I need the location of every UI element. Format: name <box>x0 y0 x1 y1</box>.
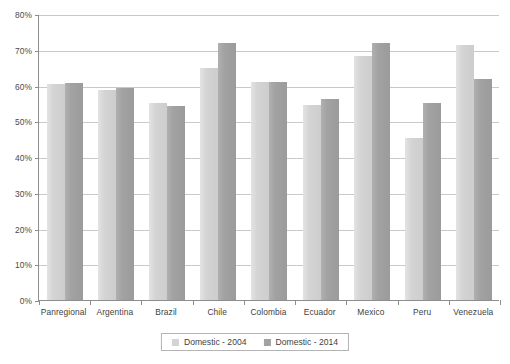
y-axis-tick-label: 0% <box>20 296 32 306</box>
y-axis-tick-label: 80% <box>15 10 32 20</box>
y-axis-tick-label: 40% <box>15 153 32 163</box>
chart-legend: Domestic - 2004Domestic - 2014 <box>161 333 349 351</box>
x-axis-tick-label: Argentina <box>96 307 133 317</box>
bar <box>47 84 65 300</box>
x-axis-tick <box>346 300 347 305</box>
x-axis-tick-label: Mexico <box>357 307 384 317</box>
bar <box>321 99 339 300</box>
bar-chart: 0%10%20%30%40%50%60%70%80% PanregionalAr… <box>0 0 510 364</box>
x-axis-tick <box>141 300 142 305</box>
bar <box>65 83 83 300</box>
x-axis-tick-label: Peru <box>413 307 431 317</box>
y-axis-tick-label: 20% <box>15 225 32 235</box>
x-axis-tick <box>449 300 450 305</box>
x-axis-tick-label: Ecuador <box>304 307 336 317</box>
bar-group <box>39 15 90 300</box>
y-axis-tick-label: 60% <box>15 82 32 92</box>
x-axis-tick <box>500 300 501 305</box>
bar-group <box>346 15 397 300</box>
y-axis-tick-label: 30% <box>15 189 32 199</box>
bar-group <box>398 15 449 300</box>
x-axis-tick-label: Chile <box>207 307 227 317</box>
bar <box>251 82 269 300</box>
y-axis-tick-label: 10% <box>15 260 32 270</box>
bar <box>423 103 441 300</box>
bar <box>354 56 372 300</box>
bar <box>116 88 134 300</box>
bar-group <box>141 15 192 300</box>
x-axis-tick <box>398 300 399 305</box>
legend-swatch-icon <box>172 339 179 346</box>
bar-group <box>449 15 500 300</box>
x-axis-tick <box>39 300 40 305</box>
bar-group <box>295 15 346 300</box>
bar <box>303 105 321 300</box>
bar <box>200 68 218 300</box>
bar-group <box>193 15 244 300</box>
x-axis-tick <box>90 300 91 305</box>
x-axis-tick-label: Panregional <box>41 307 87 317</box>
plot-area: 0%10%20%30%40%50%60%70%80% <box>38 15 499 301</box>
bar <box>405 138 423 300</box>
y-axis-tick-label: 70% <box>15 46 32 56</box>
legend-label: Domestic - 2004 <box>184 337 247 347</box>
bar <box>474 79 492 300</box>
x-axis-tick-label: Venezuela <box>453 307 493 317</box>
x-axis-tick <box>295 300 296 305</box>
bar <box>372 43 390 300</box>
bar <box>167 106 185 300</box>
bar <box>456 45 474 300</box>
x-axis-tick <box>244 300 245 305</box>
legend-item[interactable]: Domestic - 2004 <box>172 337 247 347</box>
legend-swatch-icon <box>264 339 271 346</box>
legend-label: Domestic - 2014 <box>276 337 339 347</box>
bar <box>98 90 116 300</box>
legend-item[interactable]: Domestic - 2014 <box>264 337 339 347</box>
bar <box>269 82 287 300</box>
x-axis-tick <box>193 300 194 305</box>
x-axis-tick-label: Brazil <box>155 307 177 317</box>
bar-group <box>90 15 141 300</box>
x-axis-tick-label: Colombia <box>250 307 286 317</box>
y-axis-tick-label: 50% <box>15 117 32 127</box>
bar <box>218 43 236 300</box>
bar-group <box>244 15 295 300</box>
bar <box>149 103 167 300</box>
